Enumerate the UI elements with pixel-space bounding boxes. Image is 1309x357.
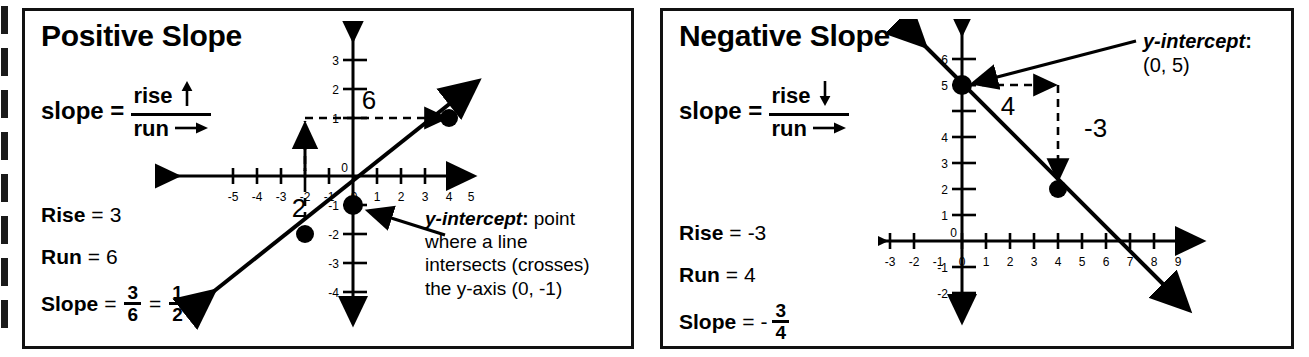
positive-slope-panel: Positive Slope slope = rise run bbox=[22, 8, 634, 349]
binder-mark bbox=[1, 300, 8, 328]
fraction-numerator: 3 bbox=[772, 301, 789, 320]
slope-fraction-three-sixths: 3 6 bbox=[124, 283, 141, 324]
page-title-negative: Negative Slope bbox=[679, 19, 890, 53]
equals-sign: = bbox=[104, 292, 116, 316]
svg-text:-5: -5 bbox=[228, 190, 239, 204]
run-stat-positive: Run = 6 bbox=[41, 245, 118, 269]
svg-text:4: 4 bbox=[1055, 255, 1062, 269]
slope-formula-lhs: slope = bbox=[679, 97, 762, 125]
binder-mark bbox=[1, 174, 8, 202]
negative-sign: - bbox=[760, 310, 767, 334]
definition-line-1: point bbox=[528, 208, 574, 229]
svg-text:6: 6 bbox=[1103, 255, 1110, 269]
svg-text:-4: -4 bbox=[252, 190, 263, 204]
fraction-denominator-row: run bbox=[769, 116, 848, 142]
svg-text:8: 8 bbox=[1151, 255, 1158, 269]
svg-text:1: 1 bbox=[983, 255, 990, 269]
x-axis: -3 -2 -1 0 1 2 3 4 5 6 7 8 9 bbox=[878, 233, 1202, 269]
svg-text:-3: -3 bbox=[328, 257, 339, 271]
fraction-denominator: 4 bbox=[772, 323, 789, 342]
point-marker bbox=[1049, 180, 1067, 198]
run-measure-label: 6 bbox=[362, 85, 376, 115]
svg-text:9: 9 bbox=[1175, 255, 1182, 269]
run-label: Run bbox=[679, 263, 720, 287]
y-intercept-term: y-intercept bbox=[425, 208, 522, 229]
svg-text:-4: -4 bbox=[328, 286, 339, 300]
y-intercept-point: (0, 5) bbox=[1143, 54, 1190, 76]
point-marker bbox=[440, 109, 458, 127]
binder-mark bbox=[1, 48, 8, 76]
svg-text:7: 7 bbox=[1127, 255, 1134, 269]
y-intercept-marker bbox=[952, 75, 972, 95]
binder-mark bbox=[1, 216, 8, 244]
slope-label: Slope bbox=[679, 310, 736, 334]
y-intercept-term: y-intercept bbox=[1143, 30, 1245, 52]
run-measure-label: 4 bbox=[1001, 91, 1015, 121]
rise-value: -3 bbox=[748, 221, 767, 245]
down-arrow-icon bbox=[817, 81, 833, 111]
numerator-text: rise bbox=[771, 85, 810, 107]
svg-text:1: 1 bbox=[941, 209, 948, 223]
slope-formula-negative: slope = rise run bbox=[679, 79, 849, 142]
svg-text:3: 3 bbox=[332, 54, 339, 68]
svg-text:2: 2 bbox=[1007, 255, 1014, 269]
equals-sign: = bbox=[91, 203, 103, 227]
binder-mark bbox=[1, 258, 8, 286]
binder-mark bbox=[1, 90, 8, 118]
rise-label: Rise bbox=[41, 203, 85, 227]
svg-text:3: 3 bbox=[1031, 255, 1038, 269]
svg-text:0: 0 bbox=[341, 161, 348, 175]
definition-line-3: intersects (crosses) bbox=[425, 254, 590, 275]
svg-text:0: 0 bbox=[950, 226, 957, 240]
negative-slope-panel: Negative Slope slope = rise run bbox=[660, 8, 1294, 349]
slope-stat-negative: Slope = - 3 4 bbox=[679, 301, 791, 342]
rise-measure-label: -3 bbox=[1084, 113, 1107, 143]
rise-stat-negative: Rise = -3 bbox=[679, 221, 766, 245]
svg-text:5: 5 bbox=[1079, 255, 1086, 269]
svg-text:1: 1 bbox=[374, 190, 381, 204]
y-intercept-pointer-arrow bbox=[974, 41, 1136, 83]
rise-value: 3 bbox=[110, 203, 122, 227]
run-label: Run bbox=[41, 245, 82, 269]
svg-text:-2: -2 bbox=[937, 287, 948, 301]
svg-text:3: 3 bbox=[941, 157, 948, 171]
binder-mark bbox=[1, 6, 8, 34]
slope-label: Slope bbox=[41, 292, 98, 316]
rise-measure-label: 2 bbox=[292, 193, 306, 223]
definition-line-4: the y-axis (0, -1) bbox=[425, 278, 562, 299]
fraction-numerator-row: rise bbox=[769, 79, 848, 113]
svg-text:-2: -2 bbox=[328, 228, 339, 242]
svg-text:-2: -2 bbox=[909, 255, 920, 269]
binder-mark bbox=[1, 132, 8, 160]
equals-sign: = bbox=[726, 263, 738, 287]
y-intercept-marker bbox=[343, 195, 363, 215]
run-stat-negative: Run = 4 bbox=[679, 263, 756, 287]
equals-sign: = bbox=[742, 310, 754, 334]
denominator-text: run bbox=[771, 118, 806, 140]
rise-over-run-fraction: rise run bbox=[769, 79, 848, 142]
worksheet-sheet: Positive Slope slope = rise run bbox=[0, 0, 1309, 357]
svg-text:4: 4 bbox=[446, 190, 453, 204]
svg-text:-3: -3 bbox=[276, 190, 287, 204]
rise-label: Rise bbox=[679, 221, 723, 245]
svg-text:2: 2 bbox=[332, 83, 339, 97]
y-intercept-callout: y-intercept: (0, 5) bbox=[1143, 29, 1252, 77]
svg-text:-3: -3 bbox=[885, 255, 896, 269]
rise-stat-positive: Rise = 3 bbox=[41, 203, 121, 227]
svg-text:5: 5 bbox=[468, 190, 475, 204]
svg-text:3: 3 bbox=[422, 190, 429, 204]
x-axis: -5 -4 -3 -2 -1 0 1 2 3 4 5 bbox=[177, 168, 475, 204]
y-axis: 3 2 1 0 -1 -2 -3 -4 bbox=[328, 39, 367, 323]
svg-text:2: 2 bbox=[398, 190, 405, 204]
svg-text:5: 5 bbox=[941, 79, 948, 93]
colon: : bbox=[1245, 30, 1252, 52]
equals-sign: = bbox=[88, 245, 100, 269]
svg-text:4: 4 bbox=[941, 131, 948, 145]
svg-text:-1: -1 bbox=[937, 261, 948, 275]
point-marker bbox=[296, 225, 314, 243]
slope-formula-lhs: slope = bbox=[41, 97, 124, 125]
fraction-denominator: 6 bbox=[124, 305, 141, 324]
slope-fraction-three-fourths: 3 4 bbox=[772, 301, 789, 342]
run-value: 4 bbox=[744, 263, 756, 287]
fraction-numerator: 3 bbox=[124, 283, 141, 302]
